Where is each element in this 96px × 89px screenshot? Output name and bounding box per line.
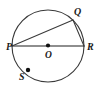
label-point-o-center: O — [45, 50, 52, 60]
label-point-q: Q — [74, 6, 81, 17]
label-point-s: S — [19, 71, 25, 82]
geometry-canvas: P Q R S O — [0, 0, 96, 89]
circle-geometry-diagram: P Q R S O — [0, 0, 96, 89]
segment-qr-chord — [73, 20, 84, 46]
label-point-r: R — [86, 41, 94, 52]
point-dot-s — [26, 68, 30, 72]
point-dot-o-center — [46, 43, 50, 47]
label-point-p: P — [6, 41, 13, 52]
segment-pq-chord — [12, 20, 73, 46]
